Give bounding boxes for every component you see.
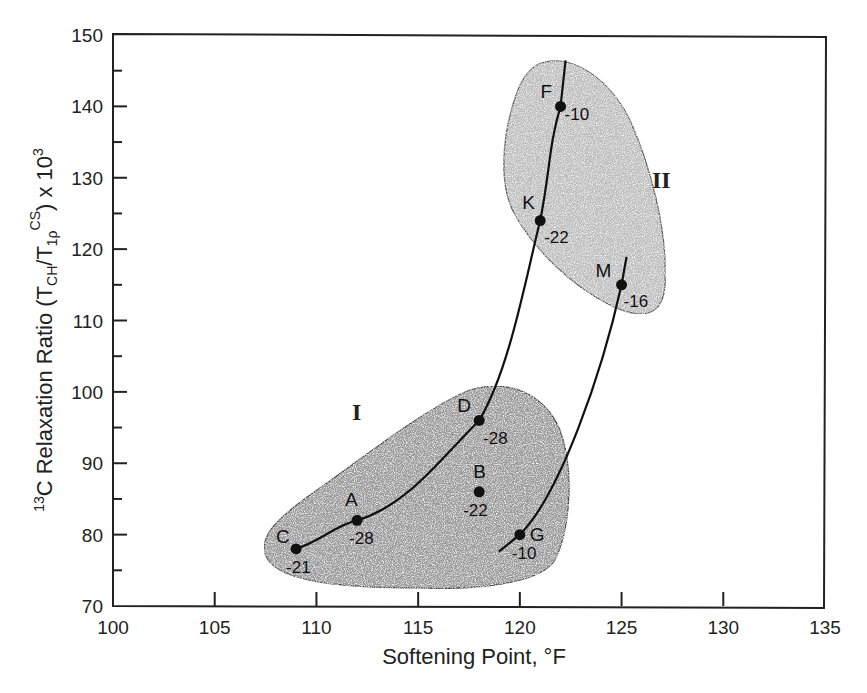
x-tick-label: 120 xyxy=(504,617,536,638)
x-tick-label: 105 xyxy=(199,617,231,638)
x-tick-label: 125 xyxy=(606,617,638,638)
point-label: C xyxy=(276,526,290,547)
point-marker xyxy=(514,529,525,540)
y-axis: 708090100110120130140150 xyxy=(71,25,127,617)
point-label: D xyxy=(457,395,471,416)
y-axis-title-sub1: CH xyxy=(44,266,60,286)
point-annotation: -16 xyxy=(624,292,649,311)
point-marker xyxy=(474,415,485,426)
point-annotation: -28 xyxy=(483,429,508,448)
y-axis-title-sup: CS xyxy=(27,211,43,230)
point-label: F xyxy=(541,81,553,102)
point-annotation: -21 xyxy=(286,558,311,577)
point-annotation: -10 xyxy=(512,544,537,563)
y-axis-title-sub2: 1ρ xyxy=(44,230,60,246)
y-axis-title-main: C Relaxation Ratio (T xyxy=(32,286,57,496)
y-tick-label: 110 xyxy=(73,311,103,332)
y-axis-title-prefix: 13 xyxy=(31,496,47,512)
region-ii-label: II xyxy=(652,167,671,193)
y-tick-label: 150 xyxy=(71,25,103,46)
point-marker xyxy=(291,543,302,554)
point-marker xyxy=(535,215,546,226)
point-label: G xyxy=(530,524,545,545)
x-tick-label: 110 xyxy=(301,617,331,638)
x-tick-label: 135 xyxy=(809,617,841,638)
y-axis-title: 13C Relaxation Ratio (TCH/T1ρCS) x 103 xyxy=(27,148,60,512)
point-label: A xyxy=(345,489,358,510)
x-axis-title: Softening Point, °F xyxy=(382,644,566,669)
x-tick-label: 100 xyxy=(97,617,129,638)
point-annotation: -28 xyxy=(349,529,374,548)
point-annotation: -22 xyxy=(463,501,488,520)
y-axis-title-exp: 3 xyxy=(30,148,46,156)
point-marker xyxy=(352,515,363,526)
y-tick-label: 80 xyxy=(82,525,103,546)
point-annotation: -22 xyxy=(544,228,569,247)
y-tick-label: 70 xyxy=(82,596,103,617)
y-tick-label: 100 xyxy=(71,382,103,403)
y-tick-label: 130 xyxy=(71,168,103,189)
x-tick-label: 115 xyxy=(403,617,433,638)
point-label: B xyxy=(473,461,486,482)
point-label: M xyxy=(596,260,612,281)
point-annotation: -10 xyxy=(565,105,590,124)
region-i-label: I xyxy=(352,399,361,425)
y-tick-label: 140 xyxy=(71,96,103,117)
point-marker xyxy=(474,486,485,497)
point-marker xyxy=(616,279,627,290)
x-axis: 100105110115120125130135 xyxy=(97,592,841,638)
y-tick-label: 120 xyxy=(71,239,103,260)
x-tick-label: 130 xyxy=(707,617,739,638)
point-label: K xyxy=(522,192,535,213)
chart: 708090100110120130140150 100105110115120… xyxy=(0,0,867,693)
y-axis-title-tail: ) x 10 xyxy=(32,156,57,211)
y-tick-label: 90 xyxy=(82,453,103,474)
y-axis-title-mid: /T xyxy=(32,246,57,266)
